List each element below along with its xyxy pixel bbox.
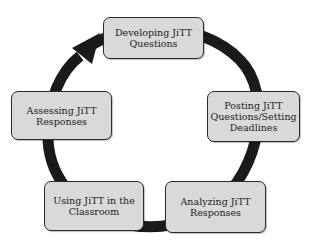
jitt-cycle-diagram: Developing JiTT Questions Posting JiTT Q… xyxy=(0,0,312,246)
step-assessing-responses: Assessing JiTT Responses xyxy=(11,91,112,140)
step-label: Posting JiTT Questions/Setting Deadlines xyxy=(206,100,300,133)
step-analyzing-responses: Analyzing JiTT Responses xyxy=(165,181,266,233)
step-posting-questions: Posting JiTT Questions/Setting Deadlines xyxy=(207,91,300,142)
step-developing-questions: Developing JiTT Questions xyxy=(103,17,204,59)
step-label: Analyzing JiTT Responses xyxy=(166,196,265,218)
step-using-in-classroom: Using JiTT in the Classroom xyxy=(44,181,144,231)
step-label: Assessing JiTT Responses xyxy=(12,105,111,127)
step-label: Using JiTT in the Classroom xyxy=(45,195,143,217)
step-label: Developing JiTT Questions xyxy=(104,27,203,49)
